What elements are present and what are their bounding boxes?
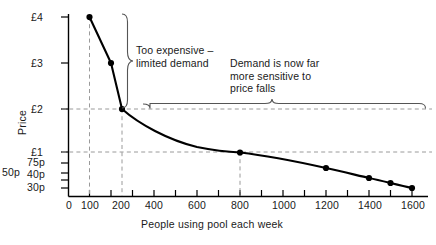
x-tick-label-1000: 1000 bbox=[265, 200, 303, 211]
data-point bbox=[86, 14, 92, 20]
annotation-too-expensive: Too expensive – limited demand bbox=[136, 44, 213, 69]
demand-curve bbox=[90, 17, 413, 188]
price-demand-chart: £4 £3 £2 £1 75p 50p 40p 30p 0 100 200 40… bbox=[0, 0, 436, 245]
y-tick-label-4: £4 bbox=[31, 12, 43, 23]
x-tick-label-1400: 1400 bbox=[351, 200, 389, 211]
x-tick-label-600: 600 bbox=[181, 200, 213, 211]
data-point bbox=[323, 165, 329, 171]
y-tick-label-50p: 50p bbox=[2, 167, 20, 178]
annotation-demand-sensitive: Demand is now far more sensitive to pric… bbox=[230, 57, 319, 95]
x-tick-label-1200: 1200 bbox=[308, 200, 346, 211]
brace-demand-sensitive bbox=[143, 99, 426, 109]
x-tick-label-1600: 1600 bbox=[394, 200, 432, 211]
x-tick-label-400: 400 bbox=[138, 200, 170, 211]
guide-lines bbox=[62, 17, 432, 196]
y-tick-label-30p: 30p bbox=[27, 182, 45, 193]
data-point bbox=[366, 175, 372, 181]
x-tick-label-800: 800 bbox=[224, 200, 256, 211]
x-tick-marks bbox=[90, 190, 413, 197]
brace-too-expensive bbox=[122, 14, 133, 108]
data-point-markers bbox=[86, 14, 415, 191]
data-point bbox=[237, 149, 243, 155]
y-tick-label-75p: 75p bbox=[27, 157, 45, 168]
x-tick-label-200: 200 bbox=[105, 200, 137, 211]
data-point bbox=[108, 60, 114, 66]
y-tick-label-2: £2 bbox=[31, 104, 43, 115]
y-tick-marks bbox=[61, 17, 69, 188]
data-point bbox=[119, 106, 125, 112]
data-point bbox=[387, 180, 393, 186]
data-point bbox=[409, 185, 415, 191]
y-tick-label-3: £3 bbox=[31, 58, 43, 69]
x-axis-title: People using pool each week bbox=[141, 218, 283, 230]
y-tick-label-40p: 40p bbox=[27, 169, 45, 180]
y-axis-title: Price bbox=[16, 110, 28, 135]
x-tick-label-100: 100 bbox=[74, 200, 106, 211]
